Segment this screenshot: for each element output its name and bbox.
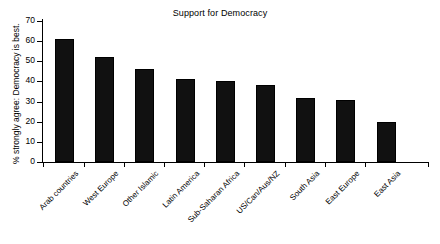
x-axis-category-label-text: East Europe — [324, 169, 362, 207]
y-axis-tick-label: 50 — [26, 55, 35, 66]
y-axis-tick-label: 30 — [26, 96, 35, 107]
x-axis-category-label-text: Arab countries — [38, 169, 82, 213]
y-axis-tick-label: 10 — [26, 136, 35, 147]
x-axis-category-label-text: Latin America — [160, 169, 201, 210]
y-axis-tick-label: 70 — [26, 15, 35, 26]
x-axis-category-label-text: South Asia — [288, 169, 322, 203]
x-axis-category-label-text: West Europe — [82, 169, 122, 209]
y-axis-tick-label: 20 — [26, 116, 35, 127]
y-axis-tick-label: 60 — [26, 35, 35, 46]
x-axis-category-label-text: East Asia — [372, 169, 403, 200]
chart-title: Support for Democracy — [0, 8, 440, 18]
y-axis-tick: 0 — [37, 162, 42, 163]
y-axis-tick-label: 0 — [30, 156, 35, 167]
x-axis-category-label-text: Other Islamic — [121, 169, 161, 209]
x-axis-tick — [428, 163, 429, 167]
bar — [55, 39, 74, 162]
bar-chart: Support for Democracy % strongly agree: … — [0, 0, 440, 244]
y-axis-tick-label: 40 — [26, 75, 35, 86]
x-axis-tick — [43, 163, 44, 167]
